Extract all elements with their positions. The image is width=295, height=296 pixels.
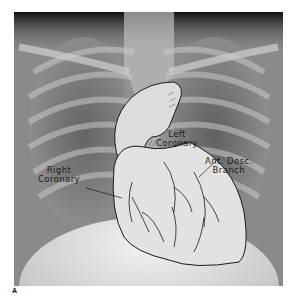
panel-letter: A bbox=[12, 287, 17, 294]
chest-xray-figure: Left Coronary Right Coronary Ant. Desc. … bbox=[14, 12, 283, 286]
ant-desc-branch-label-line2: Branch bbox=[205, 166, 253, 175]
xray-illustration bbox=[14, 12, 283, 286]
right-coronary-label: Right Coronary bbox=[38, 166, 80, 184]
right-coronary-label-line2: Coronary bbox=[38, 175, 80, 184]
ant-desc-branch-label: Ant. Desc. Branch bbox=[205, 157, 253, 175]
left-coronary-label: Left Coronary bbox=[156, 130, 198, 148]
left-coronary-label-line2: Coronary bbox=[156, 139, 198, 148]
